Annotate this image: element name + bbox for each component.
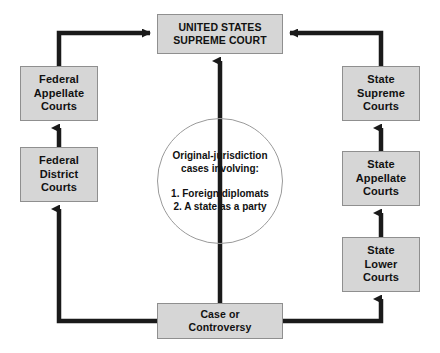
node-label-line: Courts bbox=[363, 271, 399, 284]
connector-case-to-federal-district bbox=[59, 209, 157, 321]
connector-case-to-state-lower bbox=[283, 299, 381, 321]
node-label-line: State bbox=[367, 158, 394, 171]
node-label-line: Courts bbox=[41, 181, 77, 194]
node-label-line: State bbox=[367, 73, 394, 86]
node-label-line: Supreme bbox=[357, 87, 405, 100]
node-label-line: Courts bbox=[363, 100, 399, 113]
node-label-line: SUPREME COURT bbox=[173, 34, 266, 47]
original-jurisdiction-heading-line: cases involving: bbox=[181, 162, 259, 176]
node-united-states-supreme-court[interactable]: UNITED STATES SUPREME COURT bbox=[157, 14, 283, 54]
node-label-line: Appellate bbox=[356, 172, 406, 185]
node-state-lower-courts[interactable]: State Lower Courts bbox=[342, 237, 420, 292]
node-federal-district-courts[interactable]: Federal District Courts bbox=[20, 147, 98, 202]
court-system-diagram: UNITED STATES SUPREME COURT Federal Appe… bbox=[0, 0, 440, 353]
original-jurisdiction-list-item: 1. Foreign diplomats bbox=[171, 187, 269, 201]
node-label-line: Federal bbox=[39, 73, 79, 86]
node-original-jurisdiction-circle: Original-jurisdiction cases involving: 1… bbox=[157, 118, 283, 244]
node-label-line: Federal bbox=[39, 154, 79, 167]
node-label-line: Controversy bbox=[189, 321, 252, 334]
node-state-supreme-courts[interactable]: State Supreme Courts bbox=[342, 66, 420, 121]
original-jurisdiction-list-item: 2. A state as a party bbox=[171, 200, 269, 214]
node-label-line: Courts bbox=[363, 185, 399, 198]
node-federal-appellate-courts[interactable]: Federal Appellate Courts bbox=[20, 66, 98, 121]
node-label-line: State bbox=[367, 244, 394, 257]
connector-federal-appellate-to-supreme-court bbox=[59, 33, 150, 66]
original-jurisdiction-list: 1. Foreign diplomats 2. A state as a par… bbox=[171, 187, 269, 214]
connector-state-supreme-to-supreme-court bbox=[290, 33, 381, 66]
node-state-appellate-courts[interactable]: State Appellate Courts bbox=[342, 151, 420, 206]
node-label-line: Lower bbox=[365, 258, 398, 271]
node-label-line: District bbox=[40, 168, 79, 181]
original-jurisdiction-heading-line: Original-jurisdiction bbox=[172, 149, 267, 163]
node-label-line: Courts bbox=[41, 100, 77, 113]
node-label-line: Case or bbox=[200, 308, 239, 321]
node-label-line: Appellate bbox=[34, 87, 84, 100]
node-label-line: UNITED STATES bbox=[178, 21, 261, 34]
node-case-or-controversy[interactable]: Case or Controversy bbox=[157, 303, 283, 339]
